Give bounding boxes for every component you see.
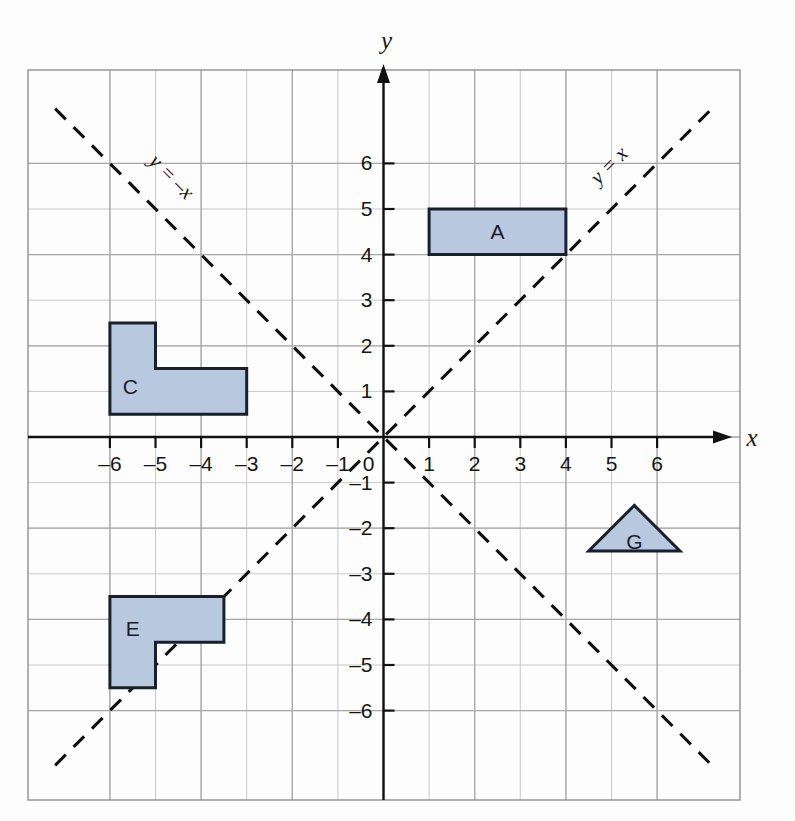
y-tick-label: 6 bbox=[361, 151, 373, 174]
x-axis-name: x bbox=[745, 424, 757, 451]
x-tick-label: –3 bbox=[235, 452, 258, 475]
x-tick-label: –2 bbox=[281, 452, 304, 475]
y-tick-label: 2 bbox=[361, 334, 373, 357]
x-tick-label: 1 bbox=[423, 452, 435, 475]
x-tick-label: –4 bbox=[189, 452, 213, 475]
y-tick-label: 3 bbox=[361, 288, 373, 311]
x-tick-label: 5 bbox=[606, 452, 618, 475]
y-tick-label: –5 bbox=[349, 653, 372, 676]
x-tick-label: –1 bbox=[326, 452, 349, 475]
origin-label: 0 bbox=[363, 452, 375, 475]
shape-g-triangle-letter: G bbox=[626, 530, 642, 553]
y-tick-label: –6 bbox=[349, 699, 372, 722]
shape-c-l-shape-letter: C bbox=[123, 375, 138, 398]
x-tick-label: –6 bbox=[98, 452, 121, 475]
coordinate-grid-figure: –6–5–4–3–2–1123456654321–1–2–3–4–5–60 AC… bbox=[0, 0, 795, 821]
x-tick-label: 4 bbox=[560, 452, 572, 475]
shape-e-l-shape-letter: E bbox=[126, 617, 140, 640]
x-tick-label: 3 bbox=[514, 452, 526, 475]
y-tick-label: –2 bbox=[349, 516, 372, 539]
y-tick-label: 5 bbox=[361, 197, 373, 220]
x-tick-label: 6 bbox=[651, 452, 663, 475]
y-tick-label: –4 bbox=[349, 607, 373, 630]
y-axis-name: y bbox=[378, 27, 393, 54]
y-tick-label: 1 bbox=[361, 379, 373, 402]
y-tick-label: –3 bbox=[349, 562, 372, 585]
x-tick-label: –5 bbox=[144, 452, 167, 475]
shape-a-rectangle-letter: A bbox=[490, 220, 504, 243]
y-tick-label: 4 bbox=[361, 243, 373, 266]
x-tick-label: 2 bbox=[469, 452, 481, 475]
coordinate-plane-svg: –6–5–4–3–2–1123456654321–1–2–3–4–5–60 AC… bbox=[0, 0, 795, 821]
